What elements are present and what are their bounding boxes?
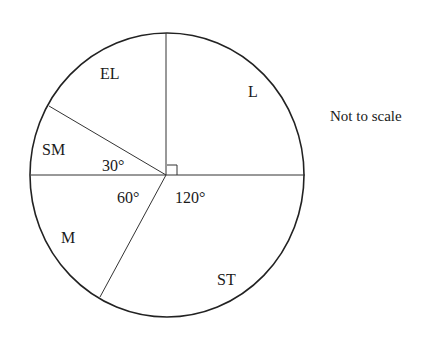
angle-label-30: 30° xyxy=(102,157,124,174)
sector-label-l: L xyxy=(248,83,258,100)
sector-label-sm: SM xyxy=(42,141,65,158)
not-to-scale-note: Not to scale xyxy=(330,108,402,124)
angle-label-60: 60° xyxy=(117,189,139,206)
right-angle-marker xyxy=(167,165,177,175)
sector-label-m: M xyxy=(61,229,75,246)
sector-label-el: EL xyxy=(100,65,120,82)
sector-label-st: ST xyxy=(217,271,236,288)
pie-diagram: EL L SM M ST 30° 60° 120° Not to scale xyxy=(0,0,447,340)
angle-label-120: 120° xyxy=(175,189,205,206)
